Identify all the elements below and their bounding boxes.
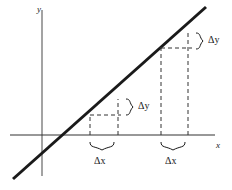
- step-right-delta-x-label: Δx: [165, 156, 176, 166]
- step-left-dx-brace: [90, 142, 114, 150]
- slope-diagram: y x Δx Δy Δx Δy: [0, 0, 232, 190]
- y-axis-label: y: [37, 5, 41, 14]
- step-right: [161, 32, 203, 150]
- step-left-delta-y-label: Δy: [138, 101, 149, 111]
- step-left: [90, 99, 133, 150]
- diagram-canvas: [0, 0, 232, 190]
- x-axis-label: x: [216, 141, 220, 150]
- step-right-dy-brace: [196, 33, 203, 49]
- step-left-delta-x-label: Δx: [94, 156, 105, 166]
- step-left-dy-brace: [126, 99, 133, 115]
- step-right-dx-brace: [161, 142, 185, 150]
- step-right-delta-y-label: Δy: [208, 35, 219, 45]
